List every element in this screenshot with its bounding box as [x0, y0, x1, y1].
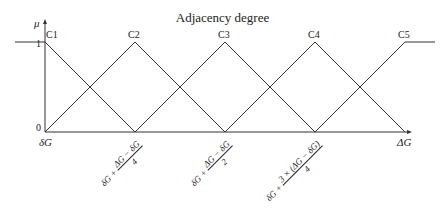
x-end-label: ΔG — [397, 136, 411, 148]
mf-c1 — [15, 42, 135, 132]
peak-label-c5: C5 — [398, 29, 410, 40]
peak-label-c4: C4 — [308, 29, 320, 40]
mf-c4 — [225, 42, 405, 132]
diagram-title: Adjacency degree — [0, 10, 445, 26]
y-tick-1: 1 — [36, 38, 41, 49]
mf-c3 — [135, 42, 315, 132]
y-tick-0: 0 — [36, 122, 41, 133]
y-axis-label: μ — [34, 17, 40, 29]
mf-c2 — [45, 42, 225, 132]
mf-c5 — [315, 42, 435, 132]
peak-label-c1: C1 — [46, 29, 58, 40]
peak-label-c3: C3 — [218, 29, 230, 40]
x-start-label: δG — [39, 136, 52, 148]
peak-label-c2: C2 — [128, 29, 140, 40]
